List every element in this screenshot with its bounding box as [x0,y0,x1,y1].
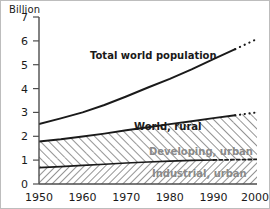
series-projection-total-world-population [235,39,257,49]
y-tick-label-1: 1 [21,154,28,167]
annotation-total-world-population: Total world population [90,50,217,61]
y-tick-label-7: 7 [21,11,28,24]
y-tick-label-0: 0 [21,178,28,191]
x-tick-label-1960: 1960 [69,191,97,204]
annotation-developing-urban: Developing, urban [149,146,253,157]
y-tick-label-4: 4 [21,83,28,96]
y-tick-label-2: 2 [21,130,28,143]
annotation-industrial-urban: Industrial, urban [152,168,247,179]
x-tick-label-1970: 1970 [112,191,140,204]
x-tick-label-2000: 2000 [241,191,269,204]
y-axis: 7 6 5 4 3 2 1 0 [21,11,39,191]
y-tick-label-3: 3 [21,106,28,119]
chart-figure: Billion [0,0,270,209]
x-tick-label-1950: 1950 [25,191,53,204]
y-tick-label-5: 5 [21,59,28,72]
y-tick-label-6: 6 [21,35,28,48]
annotation-world-rural: World, rural [134,121,202,132]
x-axis: 1950 1960 1970 1980 1990 2000 [25,184,269,204]
x-tick-label-1980: 1980 [156,191,184,204]
population-area-chart: Total world population World, rural Deve… [1,1,270,209]
x-tick-label-1990: 1990 [199,191,227,204]
